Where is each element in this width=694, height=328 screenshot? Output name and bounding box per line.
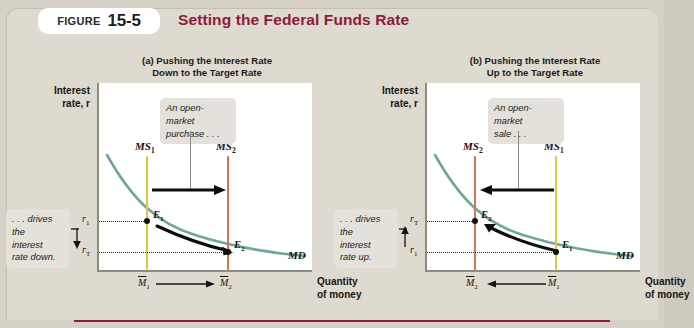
panel-b-r1-dotted <box>427 252 558 253</box>
panel-a-ms1-label: MS1 <box>135 140 155 155</box>
panel-b-ms2-name: MS <box>463 140 479 152</box>
panel-a-ylab-1: Interest <box>28 84 90 97</box>
panel-a-top-callout: An open-market purchase . . . <box>160 98 236 144</box>
panel-b-side-callout-line1: . . . drives <box>340 213 392 226</box>
panel-a-side-callout-line3: interest <box>12 239 64 252</box>
panel-a-side-callout-line4: rate down. <box>12 251 64 264</box>
panel-b-ms2-label: MS2 <box>463 140 483 155</box>
panel-a-m1-sub: 1 <box>146 283 150 291</box>
panel-a-shift-arrow <box>150 183 230 197</box>
bottom-divider-rule <box>74 320 610 322</box>
panel-b-e1-name: E <box>562 239 569 250</box>
panel-a-top-callout-line1: An open-market <box>166 102 230 128</box>
panel-a-ylab-2: rate, r <box>28 97 90 110</box>
panel-b-e1-sub: 1 <box>569 245 573 253</box>
panel-b-r1-sub: 1 <box>414 250 418 258</box>
panel-b-e2-sub: 2 <box>488 215 492 223</box>
figure-number-tab: FIGURE 15-5 <box>38 8 160 34</box>
panel-b-side-callout-line2: the <box>340 226 392 239</box>
panel-a-xlab-1: Quantity <box>317 275 379 288</box>
panel-b-top-callout-line2: sale . . . <box>494 128 558 141</box>
panel-b-shift-arrow <box>478 183 558 197</box>
panel-a-adjustment-arrow-shaft <box>157 226 229 251</box>
panel-a-e1-name: E <box>153 209 160 220</box>
panel-a-callout-leader <box>190 131 191 189</box>
panel-a-xlab-2: of money <box>317 288 379 301</box>
panel-b-e2-name: E <box>481 209 488 220</box>
panel-b-md-label: MD <box>616 249 634 261</box>
panel-a-rate-change-arrow <box>70 221 84 253</box>
panel-a-top-callout-line2: purchase . . . <box>166 128 230 141</box>
panel-b-rate-change-arrow <box>398 221 412 253</box>
panel-b-caption-line1: (b) Pushing the Interest Rate <box>420 55 650 67</box>
panel-b-m2-sub: 2 <box>474 283 478 291</box>
panel-a-ms2-sub: 2 <box>232 146 236 155</box>
panel-a-e1-sub: 1 <box>160 215 164 223</box>
panel-b-side-callout-line3: interest <box>340 239 392 252</box>
panel-b-quantity-shift-arrow <box>484 278 546 290</box>
panel-a-caption: (a) Pushing the Interest Rate Down to th… <box>92 55 322 80</box>
panel-b-e1-point <box>553 249 559 255</box>
panel-a-md-label: MD <box>288 249 306 261</box>
panel-a-caption-line2: Down to the Target Rate <box>92 67 322 79</box>
panel-b-m1-sub: 1 <box>556 283 560 291</box>
panel-a-side-callout-line2: the <box>12 226 64 239</box>
panel-b-xlab-1: Quantity <box>645 275 694 288</box>
panel-a-e2-point <box>225 249 231 255</box>
panel-b-m2-tick: M2 <box>466 277 478 291</box>
panel-b-xlab-2: of money <box>645 288 694 301</box>
panel-a-m1-tick: M1 <box>138 277 150 291</box>
panel-b-rt-sub: T <box>414 219 418 227</box>
panel-a-r1-dotted-left <box>99 221 148 222</box>
panel-a-rt-dotted <box>99 252 230 253</box>
panel-b-adjustment-arrow-shaft <box>489 227 557 251</box>
panel-a-e2-name: E <box>234 239 241 250</box>
figure-word: FIGURE <box>57 15 100 27</box>
panel-a-side-callout-line1: . . . drives <box>12 213 64 226</box>
panel-a-m2-tick: M2 <box>220 277 232 291</box>
panel-a-y-axis-title: Interest rate, r <box>28 84 90 110</box>
figure-number: 15-5 <box>108 11 141 31</box>
panel-a-r1-sub: 1 <box>86 219 90 227</box>
figure-title: Setting the Federal Funds Rate <box>178 11 409 29</box>
panel-a-ms1-sub: 1 <box>151 146 155 155</box>
panel-b-top-callout-line1: An open-market <box>494 102 558 128</box>
panel-a-x-axis-title: Quantity of money <box>317 275 379 301</box>
panel-b-ylab-2: rate, r <box>356 97 418 110</box>
panel-b-e1-label: E1 <box>562 239 573 253</box>
panel-a-e2-sub: 2 <box>241 245 245 253</box>
panel-b-e2-label: E2 <box>481 209 492 223</box>
panel-b-y-axis-title: Interest rate, r <box>356 84 418 110</box>
panel-a-rt-sub: T <box>86 250 90 258</box>
panel-a-caption-line1: (a) Pushing the Interest Rate <box>92 55 322 67</box>
panel-b-callout-leader <box>518 131 519 189</box>
panel-a-side-callout: . . . drives the interest rate down. <box>6 209 70 268</box>
panel-b-ms2-sub: 2 <box>479 146 483 155</box>
panel-b-m1-tick: M1 <box>548 277 560 291</box>
panel-a-e2-label: E2 <box>234 239 245 253</box>
panel-b-caption-line2: Up to the Target Rate <box>420 67 650 79</box>
panel-b-ms1-sub: 1 <box>560 146 564 155</box>
panel-b-rt-dotted <box>427 221 476 222</box>
panel-a-e1-label: E1 <box>153 209 164 223</box>
panel-a-e1-point <box>144 218 150 224</box>
panel-b-md-curve <box>435 155 633 256</box>
panel-b-side-callout: . . . drives the interest rate up. <box>334 209 398 268</box>
panel-b-caption: (b) Pushing the Interest Rate Up to the … <box>420 55 650 80</box>
panel-a-md-curve <box>107 155 305 256</box>
panel-b-ylab-1: Interest <box>356 84 418 97</box>
panel-b-top-callout: An open-market sale . . . <box>488 98 564 144</box>
panel-b-x-axis-title: Quantity of money <box>645 275 694 301</box>
panel-b-e2-point <box>472 218 478 224</box>
panel-a-ms1-name: MS <box>135 140 151 152</box>
panel-b-side-callout-line4: rate up. <box>340 251 392 264</box>
panel-a-quantity-shift-arrow <box>156 278 218 290</box>
panel-a-m2-sub: 2 <box>228 283 232 291</box>
